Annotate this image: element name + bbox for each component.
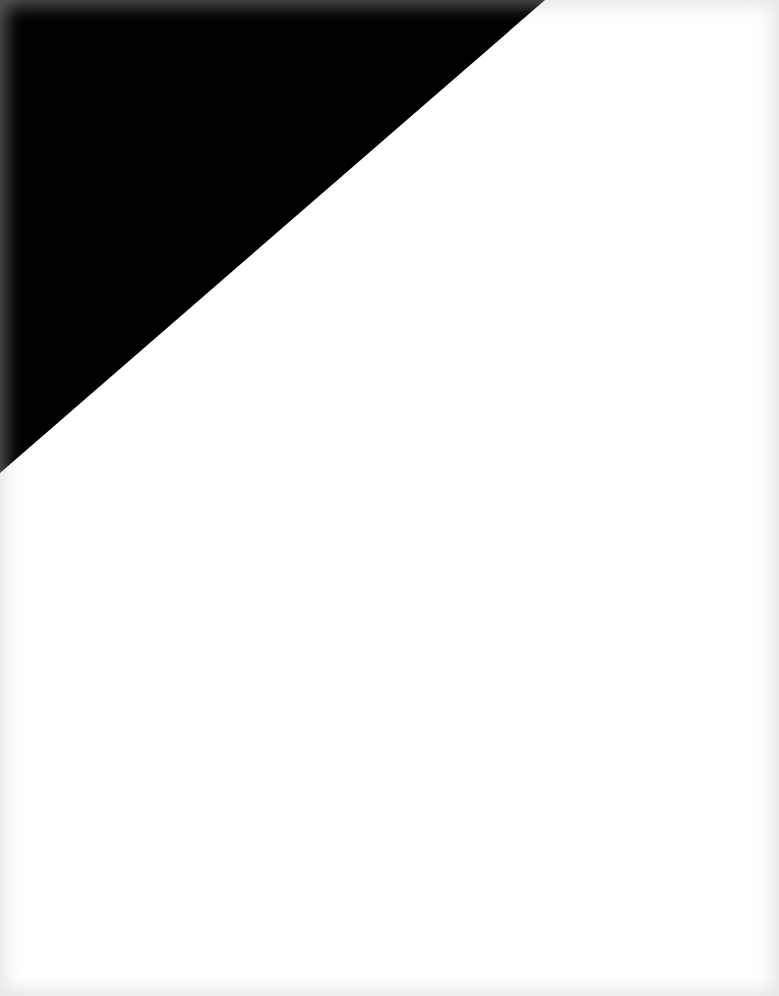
canvas [0, 0, 779, 996]
shape-layer [0, 0, 779, 996]
